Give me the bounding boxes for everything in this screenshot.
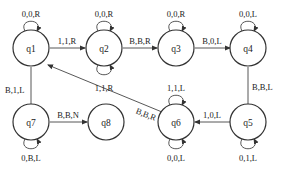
state-label: q1 [26, 44, 36, 54]
transition-label: 1,1,R [58, 36, 77, 46]
state-label: q5 [243, 118, 253, 128]
transition-label: 0,1,L [239, 153, 257, 163]
transition-label: B,B,R [129, 36, 151, 46]
state-label: q3 [171, 44, 181, 54]
transition-label: B,1,L [5, 85, 24, 95]
transition-label: B,B,L [252, 82, 273, 92]
state-q8: q8 [88, 104, 124, 140]
transition-label: 0,0,L [167, 153, 185, 163]
state-label: q4 [243, 44, 253, 54]
state-q4: q4 [230, 30, 266, 66]
state-q2: q2 [86, 30, 122, 66]
transition-label: 1,0,L [203, 110, 221, 120]
transition-label: B,0,L [202, 36, 221, 46]
state-q7: q7 [13, 104, 49, 140]
state-q6: q6 [158, 104, 194, 140]
transition-label: 0,0,L [239, 9, 257, 19]
state-q3: q3 [158, 30, 194, 66]
transition-label: 1,1,L [167, 83, 185, 93]
state-label: q8 [101, 118, 111, 128]
state-label: q2 [99, 44, 109, 54]
state-q5: q5 [230, 104, 266, 140]
state-label: q7 [26, 118, 36, 128]
transition-label: 0,0,R [95, 9, 114, 19]
transition-label: B,B,N [57, 110, 79, 120]
state-q1: q1 [13, 30, 49, 66]
transition-label: 1,1,R [95, 83, 114, 93]
state-diagram: q1 q2 q3 q4 q5 q6 q7 q8 0,0,R 1,1,R 0,0,… [0, 0, 289, 170]
transition-label: 0,0,R [167, 9, 186, 19]
transition-label: 0,B,L [21, 153, 40, 163]
transition-label: 0,0,R [22, 9, 41, 19]
state-label: q6 [171, 118, 181, 128]
transition-label: B,B,R [134, 106, 158, 123]
